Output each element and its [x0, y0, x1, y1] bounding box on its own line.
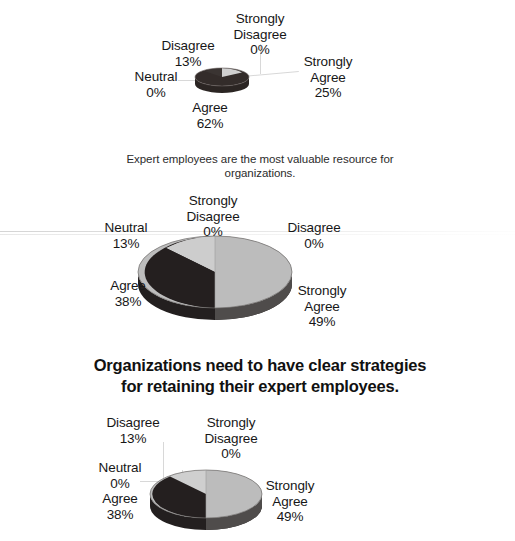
- document-page: Strongly Disagree 0% Disagree 13% Neutra…: [0, 0, 515, 541]
- pie-3-label-strongly-disagree: Strongly Disagree 0%: [185, 415, 277, 462]
- pie-3-label-strongly-agree: Strongly Agree 49%: [248, 478, 332, 525]
- pie-1-label-strongly-agree: Strongly Agree 25%: [290, 54, 366, 101]
- chart-1-caption: Expert employees are the most valuable r…: [110, 152, 410, 180]
- pie-2-label-agree: Agree 38%: [90, 278, 166, 309]
- pie-2-label-strongly-disagree: Strongly Disagree 0%: [163, 193, 263, 240]
- pie-3-label-disagree: Disagree 13%: [90, 415, 176, 446]
- pie-2-label-neutral: Neutral 13%: [86, 220, 166, 251]
- pie-3-label-neutral: Neutral 0%: [82, 460, 158, 491]
- pie-1-label-agree: Agree 62%: [176, 100, 244, 131]
- pie-1-label-neutral: Neutral 0%: [122, 69, 190, 100]
- pie-2-label-strongly-agree: Strongly Agree 49%: [280, 283, 364, 330]
- pie-1-label-strongly-disagree: Strongly Disagree 0%: [222, 11, 298, 58]
- pie-2-label-disagree: Disagree 0%: [272, 220, 356, 251]
- chart-3-heading: Organizations need to have clear strateg…: [85, 355, 435, 397]
- pie-1-label-disagree: Disagree 13%: [150, 38, 226, 69]
- pie-chart-3-graphic: [148, 468, 264, 526]
- pie-3-label-agree: Agree 38%: [84, 491, 156, 522]
